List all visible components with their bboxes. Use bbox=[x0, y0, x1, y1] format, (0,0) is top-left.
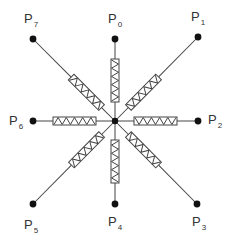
branch-p6 bbox=[33, 117, 115, 125]
label-letter: P bbox=[208, 112, 217, 127]
label-p7: P7 bbox=[24, 12, 38, 25]
label-subscript: 3 bbox=[202, 223, 206, 232]
node-p5 bbox=[30, 201, 37, 208]
label-subscript: 4 bbox=[118, 223, 122, 232]
label-subscript: 0 bbox=[118, 20, 122, 29]
wire bbox=[33, 165, 71, 204]
label-subscript: 2 bbox=[218, 121, 222, 130]
label-letter: P bbox=[191, 9, 200, 24]
label-letter: P bbox=[24, 11, 33, 26]
label-subscript: 1 bbox=[201, 18, 205, 27]
label-letter: P bbox=[108, 11, 117, 26]
label-subscript: 6 bbox=[19, 122, 23, 131]
resistor-icon bbox=[126, 132, 162, 168]
node-p3 bbox=[194, 201, 201, 208]
branch-p5 bbox=[30, 118, 118, 207]
label-p3: P3 bbox=[192, 215, 206, 228]
branch-p1 bbox=[112, 34, 201, 124]
node-p2 bbox=[195, 118, 202, 125]
node-p4 bbox=[112, 201, 119, 208]
label-p5: P5 bbox=[24, 218, 38, 231]
label-p1: P1 bbox=[191, 10, 205, 23]
resistor-star-network bbox=[0, 0, 231, 241]
wire bbox=[159, 37, 198, 77]
node-p1 bbox=[195, 34, 202, 41]
branch-p0 bbox=[111, 39, 119, 121]
label-p6: P6 bbox=[9, 114, 23, 127]
label-p2: P2 bbox=[208, 113, 222, 126]
branch-p2 bbox=[115, 117, 198, 125]
label-p0: P0 bbox=[108, 12, 122, 25]
label-letter: P bbox=[9, 113, 18, 128]
branch-p4 bbox=[111, 121, 119, 204]
label-letter: P bbox=[108, 214, 117, 229]
node-p6 bbox=[30, 118, 37, 125]
label-subscript: 7 bbox=[34, 20, 38, 29]
label-letter: P bbox=[192, 214, 201, 229]
label-p4: P4 bbox=[108, 215, 122, 228]
label-subscript: 5 bbox=[34, 226, 38, 235]
branch-p3 bbox=[112, 118, 200, 207]
label-letter: P bbox=[24, 217, 33, 232]
branch-p7 bbox=[30, 36, 118, 124]
resistor-icon bbox=[126, 74, 162, 110]
resistor-icon bbox=[68, 74, 104, 110]
node-p7 bbox=[30, 36, 37, 43]
center-node bbox=[112, 118, 118, 124]
node-p0 bbox=[112, 36, 119, 43]
wire bbox=[33, 39, 71, 77]
resistor-icon bbox=[69, 132, 105, 168]
wire bbox=[159, 165, 197, 204]
